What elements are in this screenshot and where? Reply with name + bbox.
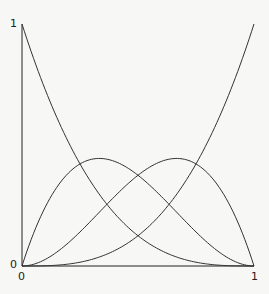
x-tick-0: 0	[18, 270, 25, 283]
x-tick-1: 1	[251, 270, 258, 283]
y-tick-1: 1	[10, 17, 17, 30]
series-line-3	[22, 24, 254, 266]
y-tick-0: 0	[10, 258, 17, 271]
chart-svg: 1 0 0 1	[0, 0, 269, 294]
curves	[22, 24, 254, 266]
series-line-2	[22, 158, 254, 266]
series-line-1	[22, 158, 254, 266]
series-line-0	[22, 24, 254, 266]
